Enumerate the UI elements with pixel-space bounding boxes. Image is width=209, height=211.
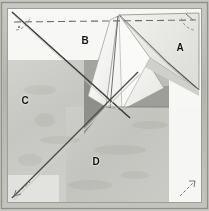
figure-canvas: A B C D — [0, 0, 209, 211]
region-label-a: A — [173, 43, 187, 53]
region-d-panel-right-cut — [169, 107, 202, 203]
region-label-d: D — [89, 157, 103, 167]
region-label-c: C — [18, 96, 32, 106]
top-left-dot — [18, 26, 20, 28]
region-d-panel — [66, 107, 169, 203]
region-label-b: B — [78, 36, 92, 46]
